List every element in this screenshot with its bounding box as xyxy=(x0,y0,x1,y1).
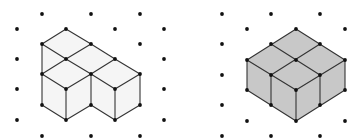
grid-dot xyxy=(220,12,224,16)
grid-dot xyxy=(162,27,166,31)
vertex-dot xyxy=(138,72,142,76)
vertex-dot xyxy=(318,42,322,46)
grid-dot xyxy=(318,12,322,16)
vertex-dot xyxy=(89,72,93,76)
grid-dot xyxy=(89,134,93,138)
vertex-dot xyxy=(343,88,347,92)
grid-dot xyxy=(162,57,166,61)
grid-dot xyxy=(318,134,322,138)
left-isometric-figure xyxy=(15,12,166,138)
vertex-dot xyxy=(343,58,347,62)
grid-dot xyxy=(15,27,19,31)
vertex-dot xyxy=(64,57,68,61)
vertex-dot xyxy=(64,87,68,91)
grid-dot xyxy=(138,12,142,16)
vertex-dot xyxy=(40,72,44,76)
grid-dot xyxy=(40,134,44,138)
vertex-dot xyxy=(318,103,322,107)
vertex-dot xyxy=(245,58,249,62)
vertex-dot xyxy=(245,88,249,92)
right-isometric-figure xyxy=(220,12,347,138)
vertex-dot xyxy=(64,118,68,122)
grid-dot xyxy=(269,12,273,16)
vertex-dot xyxy=(294,27,298,31)
grid-dot xyxy=(15,57,19,61)
grid-dot xyxy=(138,134,142,138)
grid-dot xyxy=(220,103,224,107)
grid-dot xyxy=(138,42,142,46)
grid-dot xyxy=(162,87,166,91)
grid-dot xyxy=(343,119,347,123)
vertex-dot xyxy=(40,103,44,107)
grid-dot xyxy=(220,134,224,138)
grid-dot xyxy=(220,42,224,46)
vertex-dot xyxy=(138,103,142,107)
vertex-dot xyxy=(113,118,117,122)
isometric-dot-paper-diagram xyxy=(0,0,347,140)
vertex-dot xyxy=(294,88,298,92)
vertex-dot xyxy=(89,42,93,46)
vertex-dot xyxy=(269,42,273,46)
grid-dot xyxy=(245,27,249,31)
grid-dot xyxy=(113,27,117,31)
grid-dot xyxy=(15,87,19,91)
vertex-dot xyxy=(269,73,273,77)
grid-dot xyxy=(89,12,93,16)
grid-dot xyxy=(15,118,19,122)
vertex-dot xyxy=(294,58,298,62)
grid-dot xyxy=(40,12,44,16)
grid-dot xyxy=(245,119,249,123)
vertex-dot xyxy=(294,119,298,123)
vertex-dot xyxy=(113,87,117,91)
grid-dot xyxy=(220,73,224,77)
vertex-dot xyxy=(64,27,68,31)
grid-dot xyxy=(162,118,166,122)
grid-dot xyxy=(343,27,347,31)
vertex-dot xyxy=(89,103,93,107)
vertex-dot xyxy=(269,103,273,107)
vertex-dot xyxy=(40,42,44,46)
vertex-dot xyxy=(318,73,322,77)
grid-dot xyxy=(269,134,273,138)
vertex-dot xyxy=(113,57,117,61)
